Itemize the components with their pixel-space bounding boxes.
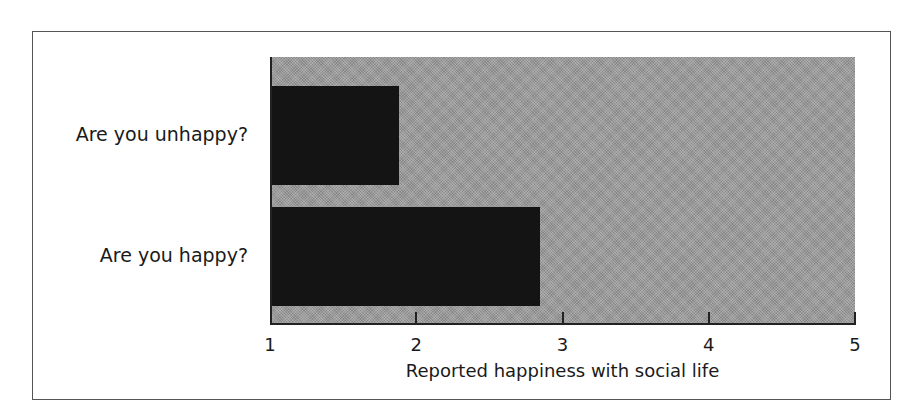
x-tick-mark [562,312,564,325]
x-tick-label: 2 [411,334,422,355]
x-tick-label: 3 [557,334,568,355]
x-tick-mark [415,312,417,325]
category-label-unhappy: Are you unhappy? [76,123,248,145]
x-tick-label: 4 [703,334,714,355]
bar-unhappy [272,86,399,185]
x-tick-mark [708,312,710,325]
bar-happy [272,207,540,306]
x-tick-label: 5 [849,334,860,355]
x-tick-mark [854,312,856,325]
x-tick-label: 1 [264,334,275,355]
x-axis-label: Reported happiness with social life [406,360,720,381]
category-label-happy: Are you happy? [100,244,248,266]
plot-area [270,57,855,325]
